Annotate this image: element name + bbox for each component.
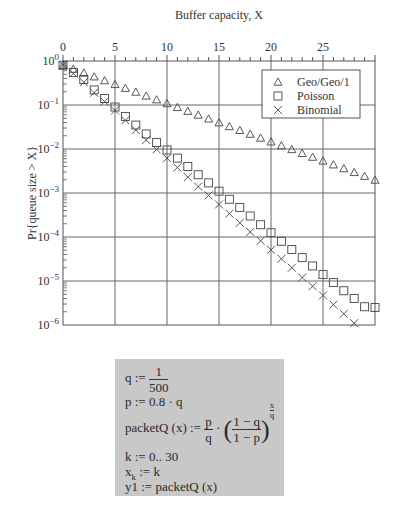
square-marker [309,262,317,270]
square-marker [225,195,233,203]
packetq-pq-fraction: p q [204,415,213,444]
legend-label: Geo/Geo/1 [297,75,350,89]
formula-packetq: packetQ (x) := p q · ( 1 − q 1 − p ) x q [125,415,274,444]
triangle-marker [361,172,369,179]
square-marker [298,254,306,262]
inner-denominator: 1 − p [232,430,261,444]
inner-numerator: 1 − q [232,415,261,430]
triangle-marker [132,88,140,95]
xk-rhs: := k [136,464,160,479]
triangle-marker [90,73,98,80]
square-marker [153,139,161,147]
left-paren: ( [224,415,233,444]
exponent-denominator: q [270,411,275,420]
formula-k: k := 0.. 30 [125,450,178,463]
formula-p: p := 0.8 · q [125,395,183,408]
right-paren: ) [261,415,270,444]
square-marker [236,203,244,211]
x-tick-label: 25 [317,40,329,54]
formula-y1: y1 := packetQ (x) [125,480,217,493]
square-marker [361,303,369,311]
dot-operator: · [216,420,220,435]
q-lhs: q := [125,370,146,385]
x-tick-label: 15 [213,40,225,54]
square-marker [194,171,202,179]
x-tick-label: 0 [60,40,66,54]
triangle-marker [101,77,109,84]
triangle-marker [309,153,317,160]
x-axis-title: Buffer capacity, X [175,8,263,22]
q-fraction: 1 500 [149,365,169,394]
y-tick-label: 10−1 [37,96,59,112]
x-tick-label: 5 [112,40,118,54]
triangle-marker [142,92,150,99]
pq-denominator: q [204,430,213,444]
triangle-marker [246,130,254,137]
triangle-marker [298,149,306,156]
square-marker [329,279,337,287]
triangle-marker [173,103,181,110]
square-marker [121,112,129,120]
square-marker [246,212,254,220]
y-tick-label: 10−6 [37,316,59,332]
packetq-inner-fraction: 1 − q 1 − p [232,415,261,444]
triangle-marker [236,126,244,133]
triangle-marker [350,168,358,175]
triangle-marker [153,96,161,103]
square-marker [288,245,296,253]
triangle-marker [205,115,213,122]
formula-box: q := 1 500 p := 0.8 · q packetQ (x) := p… [115,359,284,496]
legend-label: Binomial [297,103,342,117]
triangle-marker [257,134,265,141]
square-marker [173,154,181,162]
y-tick-label: 10−3 [37,184,59,200]
square-marker [340,287,348,295]
x-tick-label: 10 [161,40,173,54]
q-numerator: 1 [149,365,169,380]
triangle-marker [121,84,129,91]
legend: Geo/Geo/1PoissonBinomial [262,70,360,118]
y-axis-title: Pr{queue size > X} [25,146,39,240]
y-tick-label: 10−5 [37,272,59,288]
square-marker [132,121,140,129]
pq-numerator: p [204,415,213,430]
triangle-marker [80,69,88,76]
triangle-marker [329,161,337,168]
triangle-marker [277,142,285,149]
formula-q: q := 1 500 [125,365,168,394]
triangle-marker [225,122,233,129]
triangle-marker [194,111,202,118]
y-tick-label: 10−2 [37,140,59,156]
triangle-marker [184,107,192,114]
triangle-marker [340,165,348,172]
square-marker [350,295,358,303]
packetq-lhs: packetQ (x) := [125,420,201,435]
y-tick-label: 10−4 [37,228,59,244]
exponent-fraction: x q [270,401,275,420]
q-denominator: 500 [149,380,169,394]
square-marker [184,163,192,171]
y-tick-label: 100 [43,52,60,68]
square-marker [257,221,265,229]
square-marker [277,237,285,245]
chart: 051015202510010−110−210−310−410−510−6Buf… [0,0,395,350]
square-marker [205,179,213,187]
x-tick-label: 20 [265,40,277,54]
legend-label: Poisson [297,89,334,103]
